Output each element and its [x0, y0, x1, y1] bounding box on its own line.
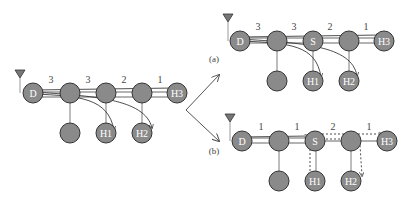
panel-original: 3 3 2 1 D H3 H1 H2: [15, 70, 187, 143]
weight-label: 1: [158, 74, 163, 85]
node-relay-1: [267, 31, 287, 51]
node-relay-3: [341, 131, 361, 151]
panel-label-a: (a): [209, 54, 219, 64]
node-relay-3: [339, 31, 359, 51]
weight-label: 2: [122, 74, 127, 85]
node-d: D: [230, 31, 250, 51]
weight-label: 3: [256, 21, 261, 32]
node-h2: H2: [341, 171, 361, 191]
node-d: D: [23, 83, 43, 103]
panel-a: 3 3 2 1 D S H3 H1 H2: [223, 14, 394, 91]
svg-text:D: D: [29, 88, 36, 99]
node-leaf: [269, 171, 289, 191]
svg-text:D: D: [236, 36, 243, 47]
node-h1: H1: [303, 71, 323, 91]
svg-text:S: S: [310, 36, 316, 47]
node-s: S: [303, 31, 323, 51]
node-leaf: [267, 71, 287, 91]
network-diagram: 3 3 2 1 D H3 H1 H2 (a) (b) 3 3: [0, 0, 412, 203]
node-relay-3: [132, 83, 152, 103]
svg-text:H1: H1: [100, 128, 112, 139]
node-h1: H1: [305, 171, 325, 191]
weight-label: 3: [292, 21, 297, 32]
svg-text:H3: H3: [171, 88, 183, 99]
svg-text:H3: H3: [381, 136, 393, 147]
node-relay-2: [96, 83, 116, 103]
branch-arrows: (a) (b): [186, 54, 219, 156]
node-h3: H3: [377, 131, 397, 151]
node-relay-1: [60, 83, 80, 103]
panel-label-b: (b): [209, 146, 220, 156]
svg-text:S: S: [312, 136, 318, 147]
svg-text:H1: H1: [307, 76, 319, 87]
svg-text:H2: H2: [345, 176, 357, 187]
svg-text:H2: H2: [136, 128, 148, 139]
node-s: S: [305, 131, 325, 151]
svg-text:D: D: [238, 136, 245, 147]
weight-label: 3: [86, 74, 91, 85]
node-h3: H3: [167, 83, 187, 103]
svg-text:H2: H2: [343, 76, 355, 87]
weight-label: 1: [295, 121, 300, 132]
weight-label: 2: [331, 121, 336, 132]
node-h1: H1: [96, 123, 116, 143]
weight-label: 1: [367, 121, 372, 132]
svg-text:H1: H1: [309, 176, 321, 187]
svg-text:H3: H3: [378, 36, 390, 47]
weight-label: 3: [49, 74, 54, 85]
node-d: D: [232, 131, 252, 151]
weight-label: 1: [364, 21, 369, 32]
node-h2: H2: [132, 123, 152, 143]
node-h2: H2: [339, 71, 359, 91]
node-leaf: [60, 123, 80, 143]
weight-label: 2: [328, 21, 333, 32]
panel-b: 1 1 2 1 D S H3 H1 H2: [225, 114, 397, 191]
weight-label: 1: [259, 121, 264, 132]
node-h3: H3: [374, 31, 394, 51]
node-relay-1: [269, 131, 289, 151]
